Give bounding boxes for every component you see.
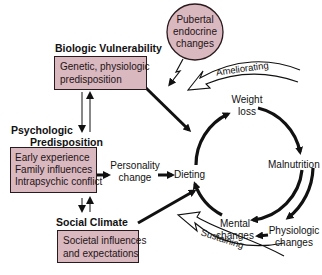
bio-to-dieting-arrow xyxy=(145,87,189,130)
psychologic-box-line1: Early experience xyxy=(15,152,89,164)
personality-line1: Personality xyxy=(110,160,160,172)
weight-line1: Weight xyxy=(227,94,267,106)
anorexia-model-diagram: Biologic Vulnerability Psychologic Predi… xyxy=(0,0,322,275)
psychologic-heading-line1: Psychologic xyxy=(11,124,73,136)
weight-loss-label: Weight loss xyxy=(227,94,267,117)
personality-change-label: Personality change xyxy=(110,160,160,183)
mental-line1: Mental xyxy=(215,218,255,230)
pubertal-line2: endocrine xyxy=(167,26,223,38)
biologic-box-line2: predisposition xyxy=(60,74,122,86)
malnutrition-label: Malnutrition xyxy=(268,159,320,171)
dieting-to-weightloss-arc xyxy=(196,114,228,165)
physiologic-line1: Physiologic xyxy=(266,225,322,237)
social-climate-heading: Social Climate xyxy=(56,216,128,228)
physiologic-line2: changes xyxy=(266,237,322,249)
psychologic-box-line2: Family influences xyxy=(15,164,92,176)
physiologic-changes-label: Physiologic changes xyxy=(266,225,322,248)
social-box: Societal influences and expectations xyxy=(57,230,139,263)
biologic-box-line1: Genetic, physiologic xyxy=(60,61,150,73)
biologic-box: Genetic, physiologic predisposition xyxy=(54,56,147,90)
pubertal-line1: Pubertal xyxy=(167,14,223,26)
biologic-vulnerability-heading: Biologic Vulnerability xyxy=(55,42,162,54)
psychologic-box: Early experience Family influences Intra… xyxy=(10,147,97,193)
social-box-line2: and expectations xyxy=(63,248,139,260)
dieting-label: Dieting xyxy=(174,169,205,181)
pubertal-endocrine-label: Pubertal endocrine changes xyxy=(167,14,223,50)
weight-line2: loss xyxy=(227,106,267,118)
pubertal-line3: changes xyxy=(167,38,223,50)
social-box-line1: Societal influences xyxy=(63,235,146,247)
pubertal-lightning-arrow xyxy=(170,59,183,84)
mental-to-dieting-arc xyxy=(195,184,222,215)
personality-line2: change xyxy=(110,172,160,184)
psychologic-box-line3: Intrapsychic conflict xyxy=(15,176,102,188)
